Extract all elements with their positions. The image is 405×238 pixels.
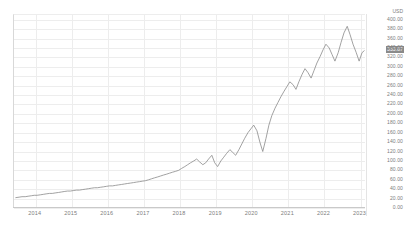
y-axis-tick-label: 120.00: [387, 148, 403, 154]
gridline-horizontal: [14, 208, 365, 209]
x-axis-tick-label: 2020: [245, 210, 258, 216]
y-axis-line: [366, 14, 367, 216]
y-axis-tick-label: 180.00: [387, 119, 403, 125]
y-axis-tick-label: 160.00: [387, 129, 403, 135]
y-axis-tick-label: 320.00: [387, 53, 403, 59]
x-axis-tick-label: 2017: [136, 210, 149, 216]
x-axis-tick-label: 2014: [28, 210, 41, 216]
x-axis-tick-label: 2019: [209, 210, 222, 216]
x-axis-tick-label: 2015: [64, 210, 77, 216]
y-axis-tick-label: 300.00: [387, 63, 403, 69]
x-axis-tick-label: 2018: [173, 210, 186, 216]
y-axis-tick-label: 280.00: [387, 72, 403, 78]
y-axis-tick-label: 100.00: [387, 157, 403, 163]
price-line-series: [14, 15, 366, 208]
y-axis-tick-label: 360.00: [387, 35, 403, 41]
y-axis-labels: USD 333.87 400.00380.00360.00340.00320.0…: [366, 8, 405, 220]
stock-price-chart: USD 333.87 400.00380.00360.00340.00320.0…: [0, 0, 405, 238]
price-line-path: [16, 26, 364, 197]
x-axis-tick-label: 2022: [317, 210, 330, 216]
y-axis-tick-label: 140.00: [387, 138, 403, 144]
y-axis-tick-label: 220.00: [387, 100, 403, 106]
y-axis-tick-label: 240.00: [387, 91, 403, 97]
y-axis-tick-label: 200.00: [387, 110, 403, 116]
y-axis-tick-label: 260.00: [387, 82, 403, 88]
y-axis-unit-label: USD: [392, 8, 403, 14]
x-axis-labels: 2014201520162017201820192020202120222023: [0, 210, 405, 224]
y-axis-tick-label: 380.00: [387, 25, 403, 31]
y-axis-tick-label: 340.00: [387, 44, 403, 50]
x-axis-tick-label: 2016: [100, 210, 113, 216]
x-axis-tick-label: 2021: [281, 210, 294, 216]
y-axis-tick-label: 40.00: [390, 185, 403, 191]
plot-area: [13, 14, 365, 207]
x-axis-tick-label: 2023: [353, 210, 366, 216]
y-axis-tick-label: 20.00: [390, 195, 403, 201]
y-axis-tick-label: 60.00: [390, 176, 403, 182]
y-axis-tick-label: 80.00: [390, 166, 403, 172]
x-axis-line: [13, 207, 365, 208]
y-axis-tick-label: 400.00: [387, 16, 403, 22]
